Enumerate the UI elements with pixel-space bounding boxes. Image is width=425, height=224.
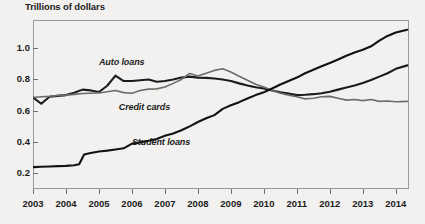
y-axis: 0.20.40.60.81.0 (2, 0, 30, 224)
x-tick-label: 2009 (214, 199, 248, 209)
x-tick-mark (330, 189, 331, 194)
x-tick-label: 2006 (115, 199, 149, 209)
y-tick-label: 0.2 (6, 168, 30, 178)
y-tick-label: 1.0 (6, 43, 30, 53)
x-tick-label: 2010 (247, 199, 281, 209)
y-tick-label: 0.4 (6, 137, 30, 147)
x-tick-mark (297, 189, 298, 194)
x-tick-mark (165, 189, 166, 194)
x-tick-label: 2004 (49, 199, 83, 209)
x-tick-label: 2008 (181, 199, 215, 209)
x-tick-label: 2012 (313, 199, 347, 209)
series-label-student-loans: Student loans (132, 137, 190, 147)
x-tick-mark (231, 189, 232, 194)
y-tick-label: 0.8 (6, 74, 30, 84)
chart-axis-title: Trillions of dollars (25, 1, 105, 12)
consumer-debt-line-chart: Trillions of dollars 0.20.40.60.81.0 200… (0, 0, 425, 224)
series-lines (33, 20, 409, 189)
series-label-auto-loans: Auto loans (99, 57, 145, 67)
x-tick-mark (396, 189, 397, 194)
x-tick-label: 2011 (280, 199, 314, 209)
series-line-auto-loans (33, 65, 407, 103)
x-tick-label: 2005 (82, 199, 116, 209)
x-tick-mark (363, 189, 364, 194)
series-line-student-loans (33, 30, 407, 167)
x-tick-label: 2014 (379, 199, 413, 209)
x-tick-mark (132, 189, 133, 194)
x-tick-mark (99, 189, 100, 194)
series-label-credit-cards: Credit cards (119, 102, 170, 112)
x-tick-label: 2003 (16, 199, 50, 209)
x-tick-label: 2013 (346, 199, 380, 209)
x-tick-label: 2007 (148, 199, 182, 209)
x-tick-mark (198, 189, 199, 194)
x-tick-mark (66, 189, 67, 194)
x-tick-mark (264, 189, 265, 194)
y-tick-label: 0.6 (6, 106, 30, 116)
x-tick-mark (33, 189, 34, 194)
